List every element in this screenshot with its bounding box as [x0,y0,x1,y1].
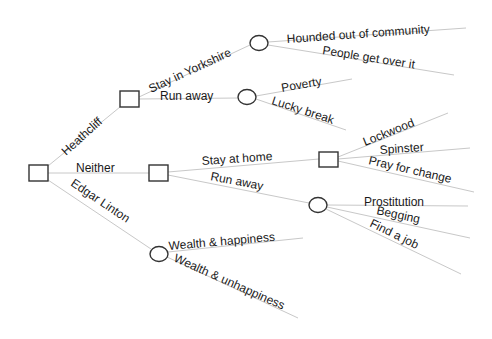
label-spinster: Spinster [379,140,424,157]
label-wealth-unhappiness: Wealth & unhappiness [172,251,287,313]
label-wealth-happiness: Wealth & happiness [168,230,275,253]
decision-tree-diagram: Heathcliff Neither Edgar Linton Stay in … [0,0,492,339]
edge-edgar-linton [48,180,151,249]
edgar-chance-node [150,247,168,262]
label-stay-at-home: Stay at home [201,149,273,168]
label-heathcliff-run-away: Run away [160,89,213,103]
heathcliff-decision-node [120,91,139,107]
stay-at-home-decision-node [319,152,338,167]
label-pray-for-change: Pray for change [367,153,453,186]
label-poverty: Poverty [280,74,323,95]
label-people-get-over-it: People get over it [322,43,417,72]
root-decision-node [29,165,48,181]
neither-run-away-chance-node [309,198,327,213]
label-edgar-linton: Edgar Linton [68,176,132,226]
label-hounded-out: Hounded out of community [286,22,430,46]
labels: Heathcliff Neither Edgar Linton Stay in … [59,22,454,312]
label-neither-run-away: Run away [209,169,264,193]
label-neither: Neither [76,161,115,175]
label-heathcliff: Heathcliff [59,114,106,158]
neither-decision-node [149,165,168,181]
yorkshire-chance-node [250,36,268,51]
label-lucky-break: Lucky break [270,94,337,128]
heathcliff-run-away-chance-node [238,90,256,105]
